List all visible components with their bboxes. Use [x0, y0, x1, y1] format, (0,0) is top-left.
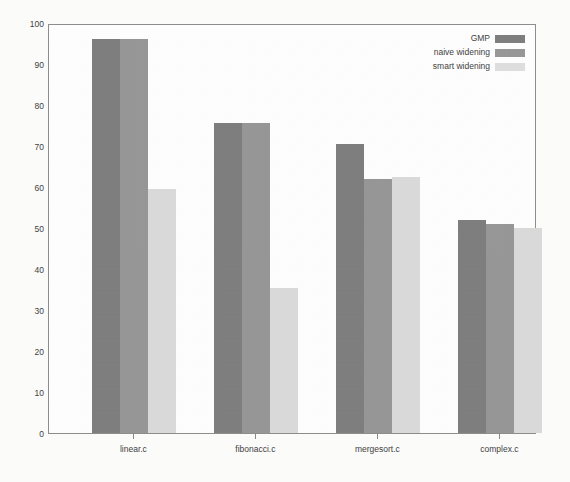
x-tick-label-complex-c: complex.c [480, 444, 518, 454]
x-tick-label-linear-c: linear.c [120, 444, 147, 454]
bar-texture [214, 123, 242, 433]
x-tick-label-mergesort-c: mergesort.c [355, 444, 400, 454]
legend-entry-smart-widening: smart widening [433, 60, 525, 73]
bar-texture [270, 288, 298, 433]
chart-legend: GMPnaive wideningsmart widening [429, 30, 529, 77]
bar-texture [486, 224, 514, 433]
bar-texture [514, 228, 542, 433]
legend-label: smart widening [433, 62, 490, 71]
bar-complex-c-GMP [458, 220, 486, 433]
x-tick-label-fibonacci-c: fibonacci.c [235, 444, 275, 454]
bar-mergesort-c-smart-widening [392, 177, 420, 433]
y-tick-label: 80 [4, 102, 44, 111]
bar-texture [120, 39, 148, 433]
bar-texture [242, 123, 270, 433]
legend-swatch-texture [495, 63, 525, 71]
legend-label: naive widening [434, 48, 490, 57]
x-tick-mark [499, 434, 500, 439]
y-tick-label: 50 [4, 225, 44, 234]
plot-area: GMPnaive wideningsmart widening [49, 25, 535, 433]
x-tick-mark [133, 434, 134, 439]
y-tick-label: 0 [4, 430, 44, 439]
bar-texture [148, 189, 176, 433]
bar-fibonacci-c-GMP [214, 123, 242, 433]
bar-texture [92, 39, 120, 433]
x-tick-mark [255, 434, 256, 439]
legend-swatch [495, 63, 525, 71]
y-tick-label: 30 [4, 307, 44, 316]
y-tick-label: 60 [4, 184, 44, 193]
bar-complex-c-naive-widening [486, 224, 514, 433]
y-tick-label: 70 [4, 143, 44, 152]
y-tick-label: 40 [4, 266, 44, 275]
bar-fibonacci-c-naive-widening [242, 123, 270, 433]
legend-label: GMP [471, 34, 490, 43]
legend-entry-GMP: GMP [433, 32, 525, 45]
bar-texture [458, 220, 486, 433]
y-tick-label: 20 [4, 348, 44, 357]
plot-frame: GMPnaive wideningsmart widening [48, 24, 536, 434]
bar-linear-c-naive-widening [120, 39, 148, 433]
bar-texture [336, 144, 364, 433]
bar-mergesort-c-GMP [336, 144, 364, 433]
legend-swatch [495, 35, 525, 43]
bar-linear-c-GMP [92, 39, 120, 433]
y-tick-label: 100 [4, 20, 44, 29]
y-tick-label: 90 [4, 61, 44, 70]
bar-complex-c-smart-widening [514, 228, 542, 433]
bar-texture [364, 179, 392, 433]
chart-figure: 0102030405060708090100 GMPnaive widening… [0, 0, 570, 482]
y-tick-label: 10 [4, 389, 44, 398]
legend-entry-naive-widening: naive widening [433, 46, 525, 59]
legend-swatch-texture [495, 35, 525, 43]
bar-mergesort-c-naive-widening [364, 179, 392, 433]
bar-fibonacci-c-smart-widening [270, 288, 298, 433]
legend-swatch [495, 49, 525, 57]
legend-swatch-texture [495, 49, 525, 57]
x-tick-mark [377, 434, 378, 439]
bar-texture [392, 177, 420, 433]
bar-linear-c-smart-widening [148, 189, 176, 433]
